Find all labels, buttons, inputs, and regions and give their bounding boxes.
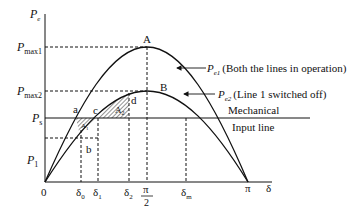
x-axis-label: δ xyxy=(266,182,271,194)
peak-a-label: A xyxy=(143,33,151,45)
pmax2-label: Pmax2 xyxy=(16,84,42,100)
point-a-label: a xyxy=(73,103,78,115)
origin-label: 0 xyxy=(41,186,47,198)
pi-label: π xyxy=(245,182,251,194)
delta1-label: δ1 xyxy=(93,186,102,201)
p1-label: P1 xyxy=(26,153,38,169)
pi-half-denominator: 2 xyxy=(144,197,149,208)
ps-label: Ps xyxy=(31,111,42,127)
pe1-annotation: Pe1(Both the lines in operation) xyxy=(206,62,347,77)
delta2-label: δ2 xyxy=(124,186,133,201)
point-d-label: d xyxy=(131,94,137,106)
y-axis-label: Pe xyxy=(29,7,40,23)
pe2-annotation: Pe2(Line 1 switched off) xyxy=(217,88,327,103)
power-angle-diagram: Pe Pmax1 Pmax2 Ps P1 0 δ0 δ1 δ2 π 2 δm π… xyxy=(0,0,354,212)
mechanical-input-label-top: Mechanical xyxy=(228,104,279,116)
point-b-label: b xyxy=(86,143,92,155)
pmax1-label: Pmax1 xyxy=(16,40,42,56)
peak-b-label: B xyxy=(160,81,167,93)
deltam-label: δm xyxy=(181,186,192,201)
delta0-label: δ0 xyxy=(76,186,85,201)
mechanical-input-label-bottom: Input line xyxy=(232,121,275,133)
pi-half-numerator: π xyxy=(143,183,149,195)
point-c-label: c xyxy=(93,104,98,116)
